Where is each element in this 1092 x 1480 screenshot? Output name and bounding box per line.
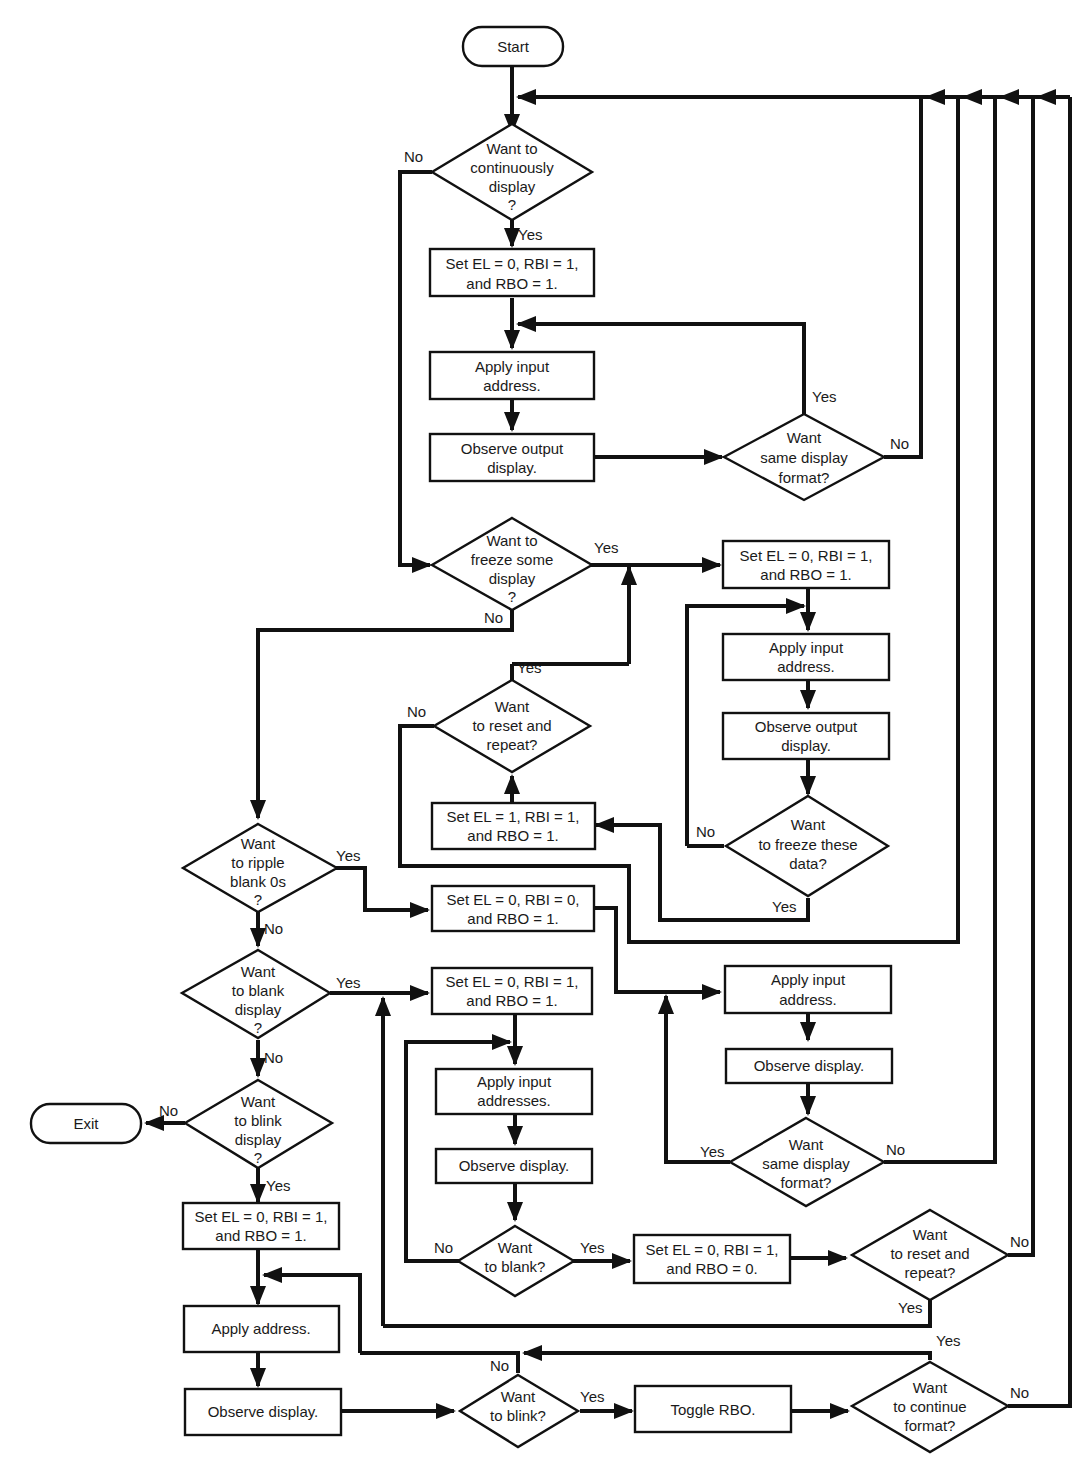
process-toggle-rbo: Toggle RBO. [635, 1386, 791, 1432]
svg-text:Observe display.: Observe display. [754, 1057, 865, 1074]
decision-continuously-display: Want to continuously display ? [432, 124, 592, 220]
svg-text:?: ? [508, 588, 516, 605]
svg-text:Want: Want [789, 1136, 824, 1153]
svg-text:and RBO = 1.: and RBO = 1. [467, 910, 558, 927]
svg-text:to reset and: to reset and [890, 1245, 969, 1262]
svg-text:Apply address.: Apply address. [211, 1320, 310, 1337]
svg-text:format?: format? [781, 1174, 832, 1191]
process-set-blink: Set EL = 0, RBI = 1, and RBO = 1. [183, 1203, 339, 1249]
svg-text:Want: Want [913, 1379, 948, 1396]
svg-text:Apply input: Apply input [771, 971, 846, 988]
svg-text:No: No [886, 1141, 905, 1158]
exit-label: Exit [73, 1115, 99, 1132]
svg-text:Want: Want [787, 429, 822, 446]
svg-text:Yes: Yes [336, 974, 360, 991]
svg-text:to blank?: to blank? [485, 1258, 546, 1275]
svg-text:No: No [1010, 1384, 1029, 1401]
svg-text:No: No [264, 920, 283, 937]
svg-text:same display: same display [760, 449, 848, 466]
svg-text:and RBO = 1.: and RBO = 1. [466, 275, 557, 292]
svg-text:Want: Want [241, 835, 276, 852]
decision-continue-format: Want to continue format? [852, 1362, 1008, 1452]
svg-text:and RBO = 1.: and RBO = 1. [215, 1227, 306, 1244]
process-observe-output-1: Observe output display. [430, 434, 594, 481]
svg-text:to continue: to continue [893, 1398, 966, 1415]
svg-text:continuously: continuously [470, 159, 554, 176]
svg-text:No: No [264, 1049, 283, 1066]
svg-text:and RBO = 1.: and RBO = 1. [760, 566, 851, 583]
svg-text:No: No [484, 609, 503, 626]
svg-text:No: No [490, 1357, 509, 1374]
svg-text:to freeze these: to freeze these [758, 836, 857, 853]
svg-text:Yes: Yes [812, 388, 836, 405]
process-set-continuous: Set EL = 0, RBI = 1, and RBO = 1. [430, 249, 594, 296]
svg-text:Observe display.: Observe display. [459, 1157, 570, 1174]
process-apply-input-addresses: Apply input addresses. [436, 1069, 592, 1114]
svg-text:and RBO = 1.: and RBO = 1. [466, 992, 557, 1009]
svg-text:No: No [434, 1239, 453, 1256]
svg-text:format?: format? [905, 1417, 956, 1434]
svg-text:Toggle RBO.: Toggle RBO. [670, 1401, 755, 1418]
svg-text:display.: display. [781, 737, 831, 754]
svg-text:Yes: Yes [580, 1388, 604, 1405]
svg-text:freeze some: freeze some [471, 551, 554, 568]
decision-to-blink: Want to blink? [460, 1375, 578, 1447]
svg-text:Want: Want [241, 1093, 276, 1110]
process-apply-input-3: Apply input address. [725, 966, 891, 1013]
svg-text:?: ? [508, 196, 516, 213]
svg-text:to blink?: to blink? [490, 1407, 546, 1424]
svg-text:Yes: Yes [772, 898, 796, 915]
flowchart: Start Exit Want to continuously display … [0, 0, 1092, 1480]
svg-text:Want to: Want to [486, 532, 537, 549]
svg-text:data?: data? [789, 855, 827, 872]
svg-text:address.: address. [483, 377, 541, 394]
svg-text:display: display [235, 1001, 282, 1018]
svg-text:No: No [1010, 1233, 1029, 1250]
svg-text:and RBO = 1.: and RBO = 1. [467, 827, 558, 844]
svg-text:Yes: Yes [518, 226, 542, 243]
decision-reset-repeat-2: Want to reset and repeat? [852, 1210, 1008, 1300]
svg-text:No: No [407, 703, 426, 720]
svg-text:No: No [404, 148, 423, 165]
svg-text:Set EL = 1, RBI = 1,: Set EL = 1, RBI = 1, [447, 808, 580, 825]
process-set-rbo0: Set EL = 0, RBI = 1, and RBO = 0. [634, 1235, 790, 1283]
decision-freeze-some: Want to freeze some display ? [432, 518, 592, 610]
decision-reset-repeat-1: Want to reset and repeat? [434, 680, 590, 772]
svg-text:Want: Want [501, 1388, 536, 1405]
svg-text:Yes: Yes [898, 1299, 922, 1316]
svg-text:Yes: Yes [266, 1177, 290, 1194]
decision-freeze-these: Want to freeze these data? [726, 796, 888, 896]
svg-text:Set EL = 0, RBI = 0,: Set EL = 0, RBI = 0, [447, 891, 580, 908]
decision-blank-display: Want to blank display ? [182, 950, 330, 1038]
svg-text:repeat?: repeat? [487, 736, 538, 753]
process-set-blank: Set EL = 0, RBI = 1, and RBO = 1. [432, 968, 592, 1014]
decision-ripple-blank: Want to ripple blank 0s ? [183, 824, 337, 912]
process-apply-input-2: Apply input address. [723, 634, 889, 680]
svg-text:display.: display. [487, 459, 537, 476]
svg-text:to reset and: to reset and [472, 717, 551, 734]
svg-text:address.: address. [779, 991, 837, 1008]
svg-text:display: display [489, 570, 536, 587]
decision-blink-display: Want to blink display ? [185, 1080, 332, 1168]
svg-text:Yes: Yes [336, 847, 360, 864]
svg-text:Yes: Yes [936, 1332, 960, 1349]
svg-text:to ripple: to ripple [231, 854, 284, 871]
svg-text:addresses.: addresses. [477, 1092, 550, 1109]
svg-text:Yes: Yes [517, 659, 541, 676]
svg-text:?: ? [254, 1149, 262, 1166]
svg-text:Apply input: Apply input [477, 1073, 552, 1090]
svg-text:Set EL = 0, RBI = 1,: Set EL = 0, RBI = 1, [195, 1208, 328, 1225]
svg-text:to blink: to blink [234, 1112, 282, 1129]
decision-same-format-1: Want same display format? [724, 414, 884, 500]
svg-text:Set EL = 0, RBI = 1,: Set EL = 0, RBI = 1, [446, 255, 579, 272]
process-set-el1: Set EL = 1, RBI = 1, and RBO = 1. [432, 803, 595, 849]
svg-text:Observe output: Observe output [755, 718, 858, 735]
svg-text:Yes: Yes [580, 1239, 604, 1256]
process-set-ripple: Set EL = 0, RBI = 0, and RBO = 1. [432, 886, 594, 931]
svg-text:Apply input: Apply input [769, 639, 844, 656]
process-apply-address: Apply address. [184, 1306, 339, 1352]
svg-text:No: No [890, 435, 909, 452]
svg-text:Observe output: Observe output [461, 440, 564, 457]
svg-text:blank 0s: blank 0s [230, 873, 286, 890]
svg-text:Yes: Yes [700, 1143, 724, 1160]
